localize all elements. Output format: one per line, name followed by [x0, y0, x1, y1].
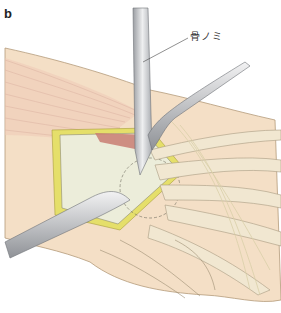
panel-label: b [4, 6, 12, 21]
surgical-illustration [0, 0, 281, 313]
osteotome-label: 骨ノミ [190, 28, 223, 43]
callout-leader [143, 38, 188, 62]
osteotome [133, 8, 152, 175]
